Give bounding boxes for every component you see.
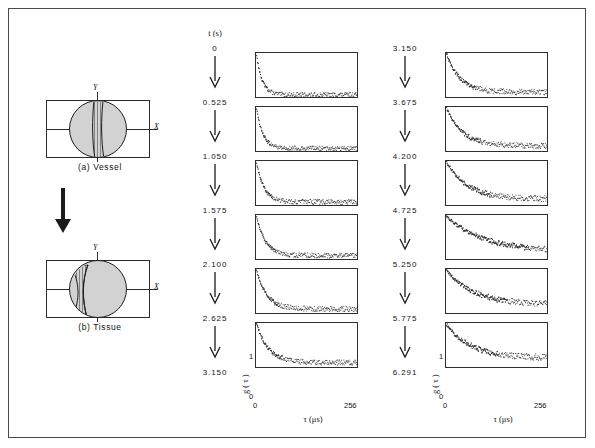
correlation-plot-panel bbox=[445, 322, 548, 368]
time-step-arrow-icon-right-1 bbox=[370, 110, 440, 148]
y-axis-label-left: g ( τ ) bbox=[240, 374, 250, 394]
correlation-curve-dots bbox=[256, 323, 357, 367]
correlation-plot-panel bbox=[255, 52, 358, 98]
correlation-curve-dots bbox=[446, 215, 547, 259]
x-tick-left-right: 0 bbox=[443, 401, 447, 410]
correlation-curve-dots bbox=[256, 53, 357, 97]
tissue-circle bbox=[69, 260, 127, 318]
time-step-arrow-icon-left-4 bbox=[180, 272, 250, 310]
time-step-arrow-icon-right-2 bbox=[370, 164, 440, 202]
time-value-left-2: 1.050 bbox=[180, 152, 250, 161]
correlation-plot-panel bbox=[255, 214, 358, 260]
y-tick-top-left: 1 bbox=[249, 352, 253, 361]
time-value-right-3: 4.725 bbox=[370, 206, 440, 215]
correlation-plot-panel bbox=[255, 268, 358, 314]
y-tick-top-right: 1 bbox=[439, 352, 443, 361]
transition-arrow-icon bbox=[52, 188, 74, 238]
time-value-right-2: 4.200 bbox=[370, 152, 440, 161]
correlation-plot-panel bbox=[445, 52, 548, 98]
schematic-vessel: Y X (a) Vessel bbox=[40, 88, 160, 174]
time-step-arrow-icon-right-4 bbox=[370, 272, 440, 310]
time-value-left-4: 2.100 bbox=[180, 260, 250, 269]
tissue-hatch-svg bbox=[70, 261, 127, 318]
x-tick-right-left: 256 bbox=[344, 401, 357, 410]
y-axis-label-right: g ( τ ) bbox=[430, 374, 440, 394]
time-value-right-4: 5.250 bbox=[370, 260, 440, 269]
time-step-arrow-icon-right-3 bbox=[370, 218, 440, 256]
x-tick-right-right: 256 bbox=[534, 401, 547, 410]
correlation-plot-panel bbox=[445, 268, 548, 314]
time-step-arrow-icon-left-1 bbox=[180, 110, 250, 148]
time-value-left-3: 1.575 bbox=[180, 206, 250, 215]
time-step-arrow-icon-left-3 bbox=[180, 218, 250, 256]
correlation-plot-panel bbox=[445, 106, 548, 152]
time-value-left-0: 0 bbox=[180, 44, 250, 53]
tissue-y-axis-label: Y bbox=[93, 243, 97, 252]
vessel-caption: (a) Vessel bbox=[40, 162, 160, 172]
correlation-plot-panel bbox=[445, 160, 548, 206]
time-value-right-5: 5.775 bbox=[370, 314, 440, 323]
x-axis-label-left: τ (μs) bbox=[258, 414, 368, 424]
correlation-curve-dots bbox=[446, 323, 547, 367]
correlation-curve-dots bbox=[256, 107, 357, 151]
time-step-arrow-icon-left-2 bbox=[180, 164, 250, 202]
schematic-tissue: Y X (b) Tissue bbox=[40, 248, 160, 334]
time-value-right-0: 3.150 bbox=[370, 44, 440, 53]
correlation-plot-panel bbox=[445, 214, 548, 260]
correlation-curve-dots bbox=[446, 161, 547, 205]
time-step-arrow-icon-left-0 bbox=[180, 56, 250, 94]
vessel-x-axis-label: X bbox=[154, 122, 159, 131]
x-tick-left-left: 0 bbox=[253, 401, 257, 410]
correlation-plot-panel bbox=[255, 322, 358, 368]
time-step-arrow-icon-left-5 bbox=[180, 326, 250, 364]
tissue-caption: (b) Tissue bbox=[40, 322, 160, 332]
vessel-y-axis-label: Y bbox=[93, 83, 97, 92]
correlation-plot-panel bbox=[255, 160, 358, 206]
correlation-curve-dots bbox=[256, 269, 357, 313]
correlation-plot-panel bbox=[255, 106, 358, 152]
time-value-left-5: 2.625 bbox=[180, 314, 250, 323]
time-value-left-1: 0.525 bbox=[180, 98, 250, 107]
correlation-curve-dots bbox=[256, 161, 357, 205]
correlation-curve-dots bbox=[256, 215, 357, 259]
vessel-tissue-circle bbox=[69, 100, 127, 158]
time-value-right-1: 3.675 bbox=[370, 98, 440, 107]
tissue-x-axis-label: X bbox=[154, 282, 159, 291]
time-step-arrow-icon-right-0 bbox=[370, 56, 440, 94]
time-axis-header-left: t (s) bbox=[180, 28, 250, 38]
correlation-curve-dots bbox=[446, 269, 547, 313]
vessel-hatch-svg bbox=[70, 101, 127, 158]
time-step-arrow-icon-right-5 bbox=[370, 326, 440, 364]
correlation-curve-dots bbox=[446, 53, 547, 97]
correlation-curve-dots bbox=[446, 107, 547, 151]
x-axis-label-right: τ (μs) bbox=[448, 414, 558, 424]
